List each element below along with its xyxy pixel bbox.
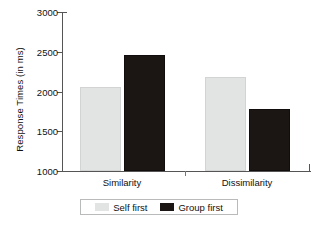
y-tick-label: 3000 [37,7,58,18]
y-tick-label: 2000 [37,86,58,97]
y-axis-top-cap [62,12,67,13]
legend-item-group-first: Group first [160,202,222,213]
bar-dissimilarity-self-first [205,77,246,171]
x-axis-right-cap [309,164,310,172]
bar-chart-figure: Response Times (in ms) 10001500200025003… [0,0,318,229]
x-axis-label-dissimilarity: Dissimilarity [222,177,273,188]
y-tick-label: 1500 [37,126,58,137]
y-tick-label: 2500 [37,46,58,57]
bar-similarity-group-first [124,55,165,171]
legend-item-self-first: Self first [95,202,147,213]
bar-similarity-self-first [80,87,121,171]
x-axis-group-separator-tick [185,171,186,176]
light-gray-swatch [95,203,109,211]
bar-dissimilarity-group-first [249,109,290,171]
y-tick-label: 1000 [37,166,58,177]
y-axis-line [62,12,63,171]
black-swatch [160,203,174,211]
plot-area: 10001500200025003000 SimilarityDissimila… [62,12,310,171]
legend-label-self-first: Self first [113,202,147,213]
x-axis-label-similarity: Similarity [103,177,142,188]
y-axis-title: Response Times (in ms) [14,25,25,175]
legend-label-group-first: Group first [178,202,222,213]
chart-legend: Self first Group first [80,199,238,215]
x-axis-line [62,171,311,172]
